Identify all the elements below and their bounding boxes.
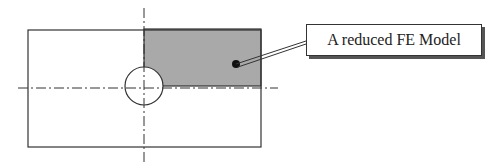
callout-text: A reduced FE Model [327, 31, 461, 49]
callout-label: A reduced FE Model [306, 24, 482, 56]
